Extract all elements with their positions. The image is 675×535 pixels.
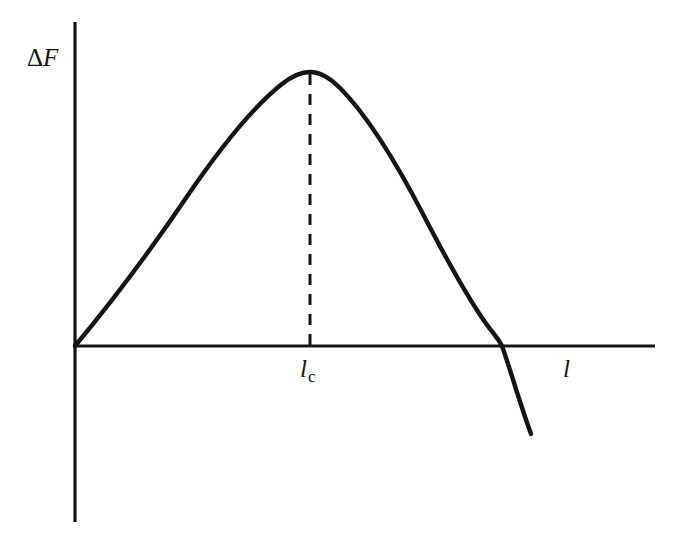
critical-size-label-subscript: c <box>308 367 316 386</box>
y-axis-label-variable: F <box>43 44 58 71</box>
critical-size-label-variable: l <box>300 355 307 382</box>
y-axis-label: ΔF <box>27 45 58 70</box>
y-axis-label-delta: Δ <box>27 44 43 71</box>
x-axis-label: l <box>563 356 570 381</box>
plot-canvas <box>0 0 675 535</box>
free-energy-barrier-figure: ΔF lc l <box>0 0 675 535</box>
critical-size-label: lc <box>300 356 315 381</box>
